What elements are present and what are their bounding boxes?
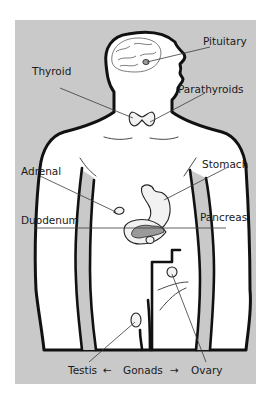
label-testis: Testis [67,364,97,376]
ovary [167,267,177,277]
arrow-right-icon: → [170,364,179,376]
arrow-left-icon: ← [103,364,112,376]
endocrine-diagram: Pituitary Thyroid Parathyroids Adrenal S… [0,0,271,401]
label-pancreas: Pancreas [200,211,247,223]
gonads-caption: Testis ← Gonads → Ovary [67,364,222,376]
label-parathyroids: Parathyroids [178,83,244,95]
label-duodenum: Duodenum [21,214,79,226]
label-gonads: Gonads [123,364,163,376]
label-ovary: Ovary [191,364,222,376]
label-adrenal: Adrenal [21,165,61,177]
label-thyroid: Thyroid [31,65,71,77]
testis [131,313,141,327]
label-stomach: Stomach [202,158,248,170]
label-pituitary: Pituitary [203,35,247,47]
gallbladder [146,237,154,244]
